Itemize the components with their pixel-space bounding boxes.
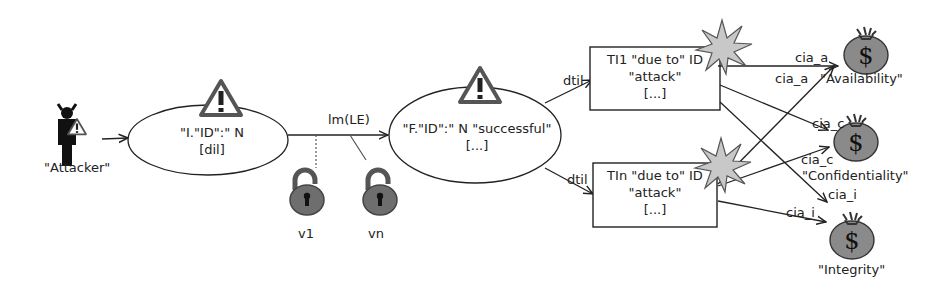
- threat-instance-n-text: TIn "due to" ID "attack" [...]: [607, 167, 703, 218]
- asset-label-integrity: "Integrity": [818, 262, 885, 277]
- final-state-text: "F."ID":" N "successful" [...]: [403, 120, 552, 154]
- open-padlock-icon: [363, 170, 397, 215]
- threat-instance-n-line3: [...]: [607, 201, 703, 218]
- open-padlock-icon: [290, 170, 324, 215]
- edge-attacker-initial: [102, 138, 128, 139]
- threat-instance-1-line2: "attack": [607, 68, 703, 85]
- edge-label-cia-i-n: cia_i: [786, 205, 815, 220]
- threat-instance-n-line2: "attack": [607, 184, 703, 201]
- threat-instance-1-line1: TI1 "due to" ID: [607, 51, 703, 68]
- initial-state-text: "I."ID":" N [dil]: [180, 124, 244, 158]
- edge-label-cia-c-1: cia_c: [812, 116, 844, 131]
- initial-state-line1: "I."ID":" N: [180, 124, 244, 141]
- asset-label-confidentiality: "Confidentiality": [802, 168, 909, 183]
- attacker-label: "Attacker": [44, 160, 110, 175]
- threat-instance-n-line1: TIn "due to" ID: [607, 167, 703, 184]
- edge-label-cia-a-n: cia_a: [775, 71, 808, 86]
- money-bag-icon: [830, 212, 874, 259]
- edge-label-cia-c-n: cia_c: [801, 152, 833, 167]
- vulnerability-label-vn: vn: [368, 226, 384, 241]
- warning-triangle-icon: [201, 81, 241, 115]
- asset-label-availability: "Availability": [820, 71, 903, 86]
- final-state-line1: "F."ID":" N "successful": [403, 120, 552, 137]
- threat-instance-1-line3: [...]: [607, 85, 703, 102]
- attacker-devil-icon: [58, 104, 86, 166]
- threat-instance-1-text: TI1 "due to" ID "attack" [...]: [607, 51, 703, 102]
- final-state-line2: [...]: [403, 137, 552, 154]
- initial-state-line2: [dil]: [180, 141, 244, 158]
- diagram-canvas: $: [0, 0, 945, 297]
- vulnerability-label-v1: v1: [298, 226, 314, 241]
- transition-label: lm(LE): [328, 112, 370, 127]
- warning-triangle-icon: [460, 68, 500, 102]
- edge-label-dtil-1: dtil: [563, 73, 584, 88]
- edge-label-cia-i-1: cia_i: [828, 187, 857, 202]
- edge-label-cia-a-1: cia_a: [795, 50, 828, 65]
- edge-label-dtil-n: dtil: [567, 172, 588, 187]
- edge-vuln-vn: [350, 135, 366, 160]
- money-bag-icon: [844, 27, 888, 74]
